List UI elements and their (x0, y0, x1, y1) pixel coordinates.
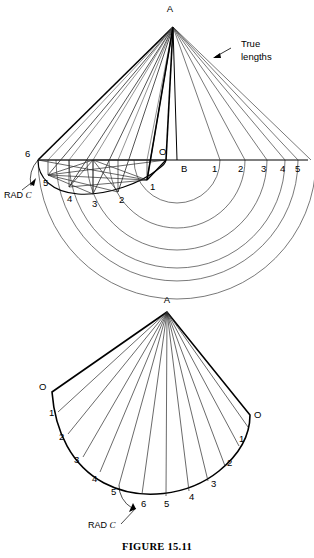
figure-caption: FIGURE 15.11 (0, 541, 314, 552)
true-length-arcs (38, 160, 314, 299)
upper-plan-label-3: 3 (92, 198, 97, 209)
upper-plan-origin-label: O (159, 146, 166, 157)
dev-gen-R3 (167, 312, 225, 466)
lower-view: A O O 1 2 3 4 5 6 5 4 3 2 1 RAD C (39, 294, 261, 530)
lower-apex-label: A (164, 294, 171, 305)
rad-c-arrow-lower (129, 503, 136, 512)
dev-gen-L5 (119, 312, 167, 485)
lower-left-label-5: 5 (111, 486, 116, 497)
arc-5 (56, 160, 298, 281)
dev-gen-R4 (167, 312, 239, 446)
apex-to-plan-3 (93, 27, 173, 194)
development-generators-right (166, 312, 248, 496)
upper-plan-label-5: 5 (43, 177, 48, 188)
rad-c-label-upper: RAD C (4, 190, 33, 200)
upper-plan-label-1: 1 (150, 181, 155, 192)
upper-left-end-label: 6 (25, 148, 30, 159)
apex-aux-a (69, 27, 173, 160)
lower-left-label-1: 1 (49, 407, 54, 418)
rad-c-label-lower: RAD C (88, 520, 117, 530)
lower-right-label-4: 4 (189, 491, 194, 502)
rad-letter-upper: C (26, 190, 33, 200)
apex-to-plan-5 (48, 27, 173, 175)
lower-right-label-3: 3 (211, 478, 216, 489)
lower-left-label-4: 4 (92, 473, 97, 484)
rad-letter-lower: C (110, 520, 117, 530)
lower-left-label-3: 3 (74, 454, 79, 465)
cone-edge-left (38, 27, 173, 160)
upper-apex-label: A (167, 3, 174, 14)
rad-label-lower: RAD (88, 520, 108, 530)
apex-aux-c (118, 27, 173, 160)
upper-arc-tick-5: 5 (295, 163, 300, 174)
rad-c-arc-lower (119, 485, 132, 508)
upper-arc-tick-4: 4 (280, 163, 285, 174)
arc-2 (109, 160, 245, 228)
lower-left-label-6: 6 (141, 498, 146, 509)
upper-base-center-label: B (181, 163, 187, 174)
rad-c-leader-lower (121, 508, 136, 524)
lower-left-o-label: O (39, 381, 46, 392)
rad-label-upper: RAD (4, 190, 24, 200)
dev-gen-L3 (83, 312, 167, 457)
upper-view: A B O 6 1 2 3 4 5 1 2 3 4 5 True lengths… (4, 3, 314, 299)
figure-drawing: A B O 6 1 2 3 4 5 1 2 3 4 5 True lengths… (0, 0, 314, 558)
true-lengths-label-line1: True (241, 38, 260, 49)
upper-arc-tick-2: 2 (238, 163, 243, 174)
upper-arc-tick-1: 1 (212, 163, 217, 174)
true-lengths-label-line2: lengths (241, 51, 272, 62)
upper-plan-label-2: 2 (119, 194, 124, 205)
dev-gen-R0 (166, 312, 167, 496)
lower-right-label-1: 1 (239, 433, 244, 444)
tl-line-r4 (173, 27, 285, 160)
apex-to-plan-2 (118, 27, 173, 192)
true-lengths-arrow (213, 53, 221, 58)
upper-arc-tick-3: 3 (261, 163, 266, 174)
tl-line-r1 (173, 27, 220, 160)
lower-center-label-5: 5 (164, 498, 169, 509)
figure-root: A B O 6 1 2 3 4 5 1 2 3 4 5 True lengths… (0, 0, 314, 558)
tl-line-r5 (173, 27, 298, 160)
lower-right-label-2: 2 (227, 457, 232, 468)
upper-plan-label-4: 4 (67, 193, 72, 204)
lower-right-o-label: O (254, 409, 261, 420)
dev-gen-L6 (142, 312, 167, 494)
tl-line-r2 (173, 27, 245, 160)
lower-left-label-2: 2 (59, 431, 64, 442)
dev-gen-L2 (68, 312, 167, 434)
arc-6 (38, 160, 314, 299)
development-generators-left (58, 312, 167, 494)
axis-line (173, 27, 177, 160)
dev-gen-L1 (58, 312, 167, 412)
plan-cross-b (69, 180, 147, 187)
